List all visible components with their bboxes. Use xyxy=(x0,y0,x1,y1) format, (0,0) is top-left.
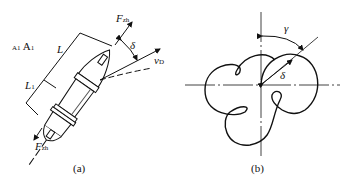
label-F-top: Fzh xyxy=(116,13,129,24)
label-F-bottom: Fzh xyxy=(35,141,48,152)
l1-sub: 1 xyxy=(31,83,35,91)
diagram-canvas xyxy=(0,0,349,186)
rosette-axes xyxy=(185,12,340,158)
label-gamma: γ xyxy=(284,23,288,34)
label-L1: L1 xyxy=(25,80,35,91)
f-bottom-sub: zh xyxy=(42,144,49,152)
f-bottom-letter: F xyxy=(35,140,42,152)
section-small: A1 xyxy=(12,44,21,52)
caption-a: (a) xyxy=(73,162,85,174)
label-delta-a: δ xyxy=(130,40,135,51)
section-label: A1 A1 xyxy=(12,41,34,52)
section-sub: 1 xyxy=(31,44,35,52)
vd-sub: D xyxy=(159,58,164,66)
label-delta-b: δ xyxy=(280,70,285,81)
section-letter: A xyxy=(23,40,31,52)
f-top-sub: zh xyxy=(123,16,130,24)
f-top-letter: F xyxy=(116,12,123,24)
caption-b: (b) xyxy=(251,162,264,174)
pick-tool xyxy=(18,42,121,173)
label-vD: vD xyxy=(154,55,164,66)
label-L: L xyxy=(57,44,63,55)
